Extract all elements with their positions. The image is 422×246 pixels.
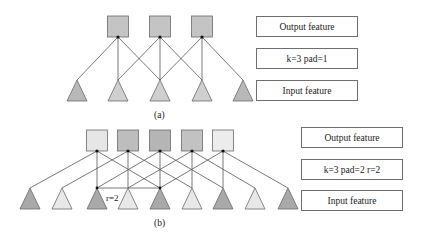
- caption-a: (a): [154, 110, 165, 120]
- connection-line: [30, 151, 97, 188]
- input-feature-label-a: Input feature: [256, 80, 358, 101]
- connection-node: [158, 149, 161, 152]
- input-feature-triangle: [233, 80, 253, 101]
- connection-node: [221, 149, 224, 152]
- output-feature-label-b: Output feature: [301, 127, 403, 148]
- input-feature-triangle: [278, 188, 298, 209]
- connection-node: [158, 35, 161, 38]
- input-feature-triangle: [52, 188, 72, 209]
- input-feature-triangle: [118, 188, 138, 209]
- output-feature-square: [192, 16, 213, 37]
- connection-node: [200, 35, 203, 38]
- connection-node: [95, 149, 98, 152]
- input-feature-triangle: [108, 80, 128, 101]
- input-feature-triangle: [192, 80, 212, 101]
- input-feature-triangle: [87, 188, 107, 209]
- connection-line: [223, 151, 288, 188]
- output-feature-square: [150, 16, 171, 37]
- caption-b: (b): [154, 218, 165, 228]
- connection-node: [116, 35, 119, 38]
- output-feature-square: [213, 130, 234, 151]
- input-feature-triangle: [182, 188, 202, 209]
- output-feature-square: [108, 16, 129, 37]
- input-feature-triangle: [245, 188, 265, 209]
- input-feature-triangle: [213, 188, 233, 209]
- connection-line: [77, 37, 118, 80]
- output-feature-square: [182, 130, 203, 151]
- connection-line: [62, 151, 128, 188]
- output-feature-label-a: Output feature: [256, 16, 358, 37]
- connection-node: [190, 149, 193, 152]
- connection-node: [96, 187, 99, 190]
- input-feature-triangle: [150, 80, 170, 101]
- input-feature-triangle: [150, 188, 170, 209]
- connection-line: [192, 151, 255, 188]
- output-feature-square: [87, 130, 108, 151]
- input-feature-triangle: [20, 188, 40, 209]
- connection-line: [202, 37, 243, 80]
- dilation-rate-label: r=2: [106, 193, 119, 203]
- panel-a-standard-convolution: [67, 16, 253, 101]
- params-label-a: k=3 pad=1: [256, 48, 358, 69]
- input-feature-triangle: [67, 80, 87, 101]
- output-feature-square: [118, 130, 139, 151]
- input-feature-label-b: Input feature: [301, 190, 403, 211]
- output-feature-square: [150, 130, 171, 151]
- connection-node: [126, 149, 129, 152]
- connection-node: [159, 187, 162, 190]
- panel-b-dilated-convolution: [20, 130, 298, 209]
- params-label-b: k=3 pad=2 r=2: [301, 159, 403, 180]
